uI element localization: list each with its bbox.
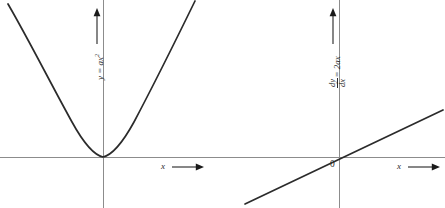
y-axis-arrow bbox=[94, 8, 101, 44]
derivative-fraction-numerator: dy bbox=[328, 78, 337, 88]
parabola-y-axis-label: y = ax2 bbox=[94, 54, 105, 80]
derivative-panel: dy dx = 2ax x 0 bbox=[222, 0, 445, 208]
x-axis-arrow bbox=[172, 164, 204, 171]
derivative-fraction: dy dx bbox=[328, 78, 347, 88]
derivative-y-label-rhs: = 2ax bbox=[333, 56, 342, 77]
parabola-y-label-text: y = ax bbox=[96, 57, 105, 80]
origin-label: 0 bbox=[330, 160, 335, 170]
parabola-panel: y = ax2 x bbox=[0, 0, 222, 208]
parabola-svg bbox=[0, 0, 222, 208]
derivative-x-axis-label: x bbox=[397, 162, 401, 171]
parabola-x-axis-label: x bbox=[161, 162, 165, 171]
x-axis-arrow bbox=[408, 164, 440, 171]
derivative-y-axis-label: dy dx = 2ax bbox=[328, 56, 347, 88]
parabola-y-label-exponent: 2 bbox=[94, 54, 100, 57]
derivative-svg bbox=[222, 0, 445, 208]
figure-container: y = ax2 x dy bbox=[0, 0, 445, 208]
derivative-fraction-denominator: dx bbox=[337, 78, 347, 88]
y-axis-arrow bbox=[330, 8, 337, 44]
